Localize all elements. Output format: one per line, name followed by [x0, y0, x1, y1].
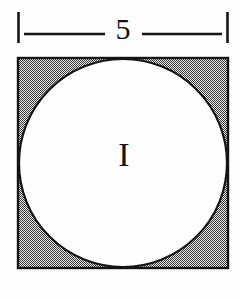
figure-canvas: 5 I [0, 0, 239, 298]
dimension-value-label: 5 [116, 12, 131, 45]
region-i-label: I [118, 136, 129, 173]
geometry-figure: 5 I [0, 0, 239, 298]
